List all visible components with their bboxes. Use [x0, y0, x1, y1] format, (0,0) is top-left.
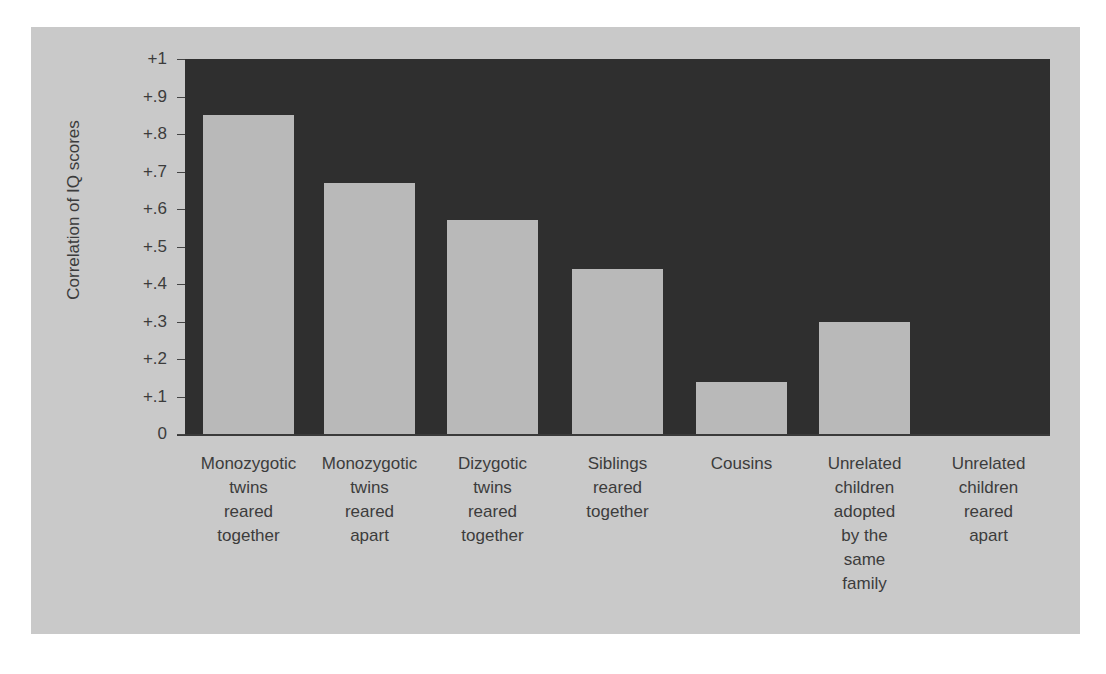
- y-tick-label: +1: [107, 50, 167, 68]
- y-tick: [177, 359, 185, 360]
- y-tick-label: +.6: [107, 200, 167, 218]
- bar: [324, 183, 415, 434]
- y-tick-label: +.9: [107, 88, 167, 106]
- y-tick: [177, 134, 185, 135]
- bar: [572, 269, 663, 434]
- plot-area: [185, 59, 1050, 434]
- y-tick: [177, 97, 185, 98]
- y-tick: [177, 59, 185, 60]
- x-category-label: Unrelated children adopted by the same f…: [803, 452, 927, 596]
- x-category-label: Siblings reared together: [556, 452, 680, 524]
- x-category-label: Unrelated children reared apart: [927, 452, 1051, 548]
- y-tick-label: +.2: [107, 350, 167, 368]
- y-tick: [177, 397, 185, 398]
- y-tick: [177, 284, 185, 285]
- y-tick-label: +.7: [107, 163, 167, 181]
- y-tick-label: +.8: [107, 125, 167, 143]
- y-axis-label: Correlation of IQ scores: [64, 120, 84, 300]
- y-tick-label: +.4: [107, 275, 167, 293]
- y-tick: [177, 172, 185, 173]
- x-category-label: Dizygotic twins reared together: [431, 452, 555, 548]
- bar: [447, 220, 538, 434]
- y-tick: [177, 322, 185, 323]
- x-category-label: Monozygotic twins reared together: [187, 452, 311, 548]
- y-tick: [177, 247, 185, 248]
- y-tick-label: +.1: [107, 388, 167, 406]
- y-tick-label: +.5: [107, 238, 167, 256]
- x-category-label: Monozygotic twins reared apart: [308, 452, 432, 548]
- bar: [203, 115, 294, 434]
- bar: [819, 322, 910, 435]
- x-axis-line: [177, 434, 1050, 436]
- y-tick-label: +.3: [107, 313, 167, 331]
- bar: [696, 382, 787, 435]
- x-category-label: Cousins: [680, 452, 804, 476]
- y-tick-label: 0: [107, 425, 167, 443]
- y-tick: [177, 209, 185, 210]
- y-tick: [177, 434, 185, 435]
